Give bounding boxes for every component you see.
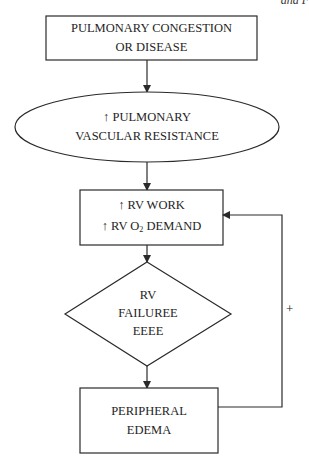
node-label-line: ↑ PULMONARY <box>15 108 279 127</box>
node-label-line: ↑ RV WORK <box>80 195 223 216</box>
node-label-line: EDEMA <box>80 421 218 440</box>
node-label-line: PULMONARY CONGESTION <box>46 19 257 38</box>
node-label-line: OR DISEASE <box>46 38 257 57</box>
node-pulmonary-vascular-resistance: ↑ PULMONARY VASCULAR RESISTANCE <box>15 108 279 146</box>
node-label-line: VASCULAR RESISTANCE <box>15 127 279 146</box>
node-pulmonary-congestion: PULMONARY CONGESTION OR DISEASE <box>46 19 257 57</box>
rv-o2-text: ↑ RV O <box>102 219 140 233</box>
node-label-line: ↑ RV O2 DEMAND <box>80 216 223 240</box>
node-label-line: PERIPHERAL <box>80 402 218 421</box>
node-rv-work: ↑ RV WORK ↑ RV O2 DEMAND <box>80 195 223 240</box>
feedback-plus-label: + <box>286 301 293 317</box>
demand-text: DEMAND <box>143 219 201 233</box>
node-label-line: FAILUREE <box>65 304 231 322</box>
node-peripheral-edema: PERIPHERAL EDEMA <box>80 402 218 440</box>
node-label-line: RV <box>65 286 231 304</box>
node-rv-failure: RV FAILUREE EEEE <box>65 286 231 340</box>
node-label-line: EEEE <box>65 322 231 340</box>
clipped-corner-text: and F <box>281 0 309 8</box>
